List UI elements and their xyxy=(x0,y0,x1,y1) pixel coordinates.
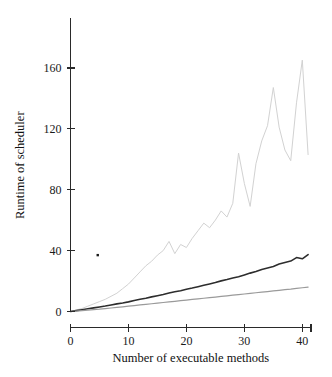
y-tick-label-80: 80 xyxy=(50,183,62,197)
y-tick-label-160: 160 xyxy=(44,61,62,75)
y-axis-title: Runtime of scheduler xyxy=(13,111,27,219)
labels-group: 04080120160010203040Number of executable… xyxy=(13,61,308,365)
series-group xyxy=(71,60,309,311)
y-tick-label-0: 0 xyxy=(56,305,62,319)
y-tick-label-120: 120 xyxy=(44,122,62,136)
series-upper-curve xyxy=(71,60,309,311)
x-tick-label-20: 20 xyxy=(180,334,192,348)
x-tick-label-30: 30 xyxy=(238,334,250,348)
x-tick-label-0: 0 xyxy=(68,334,74,348)
y-tick-label-40: 40 xyxy=(50,244,62,258)
series-middle-curve xyxy=(71,255,309,312)
axes-group xyxy=(67,18,312,332)
x-tick-label-10: 10 xyxy=(122,334,134,348)
annotation-stray-dot xyxy=(97,254,99,256)
chart-canvas: 04080120160010203040Number of executable… xyxy=(0,0,332,377)
chart-figure: 04080120160010203040Number of executable… xyxy=(0,0,332,377)
x-tick-label-40: 40 xyxy=(296,334,308,348)
x-axis-title: Number of executable methods xyxy=(112,351,269,365)
